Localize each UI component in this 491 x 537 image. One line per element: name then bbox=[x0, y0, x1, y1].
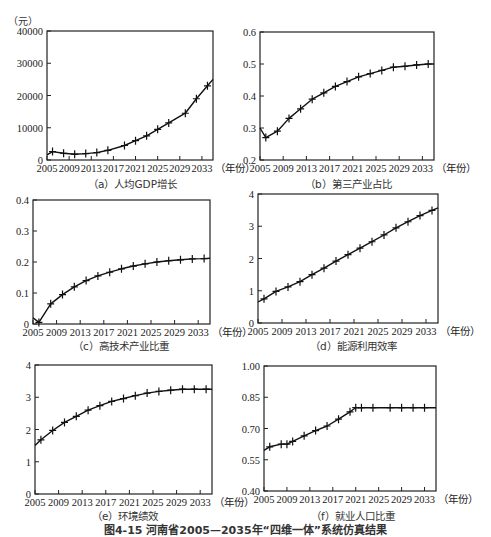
plus-marker bbox=[285, 283, 292, 291]
plus-marker bbox=[335, 415, 342, 423]
y-tick-label: 1 bbox=[249, 286, 254, 297]
x-tick-label: 2033 bbox=[416, 326, 437, 337]
plus-marker bbox=[345, 251, 352, 259]
x-tick-label: 2013 bbox=[299, 494, 320, 505]
x-tick-label: 2013 bbox=[81, 163, 102, 174]
x-tick-label: 2017 bbox=[103, 163, 124, 174]
series-line bbox=[47, 79, 213, 154]
plus-marker bbox=[191, 385, 198, 393]
plus-marker bbox=[143, 132, 150, 140]
plot-frame bbox=[47, 31, 213, 160]
chart-a: 0100002000030000400002005200920132017202… bbox=[17, 26, 255, 174]
plus-marker bbox=[378, 66, 385, 74]
x-tick-label: 2033 bbox=[414, 494, 435, 505]
y-tick-label: 3 bbox=[249, 221, 254, 232]
plot-frame bbox=[264, 366, 436, 491]
chart-f: 0.400.550.700.851.0020052009201320172021… bbox=[242, 361, 478, 505]
plus-marker bbox=[301, 432, 308, 440]
chart-e: 0123420052009201320172021202520292033（年份… bbox=[25, 360, 255, 508]
y-tick-label: 0.2 bbox=[16, 257, 29, 268]
plus-marker bbox=[421, 404, 428, 412]
plot-frame bbox=[260, 32, 434, 160]
plus-marker bbox=[405, 218, 412, 226]
y-tick-label: 1 bbox=[26, 457, 31, 468]
plus-marker bbox=[104, 146, 111, 154]
x-tick-label: 2021 bbox=[342, 163, 363, 174]
plus-marker bbox=[393, 224, 400, 232]
plus-marker bbox=[83, 277, 90, 285]
plus-marker bbox=[177, 256, 184, 264]
x-tick-label: 2013 bbox=[296, 326, 317, 337]
x-tick-label: 2013 bbox=[70, 327, 91, 338]
plus-marker bbox=[144, 389, 151, 397]
x-tick-label: 2025 bbox=[147, 163, 168, 174]
plus-marker bbox=[417, 212, 424, 220]
plus-marker bbox=[410, 404, 417, 412]
x-axis-label: （年份） bbox=[438, 493, 478, 505]
plus-marker bbox=[358, 404, 365, 412]
y-tick-label: 40000 bbox=[17, 26, 43, 37]
x-tick-label: 2009 bbox=[273, 163, 294, 174]
x-tick-label: 2029 bbox=[391, 494, 412, 505]
x-tick-label: 2013 bbox=[72, 497, 93, 508]
y-tick-label: 0.5 bbox=[243, 59, 256, 70]
y-tick-label: 0.4 bbox=[16, 195, 30, 206]
y-tick-label: 10000 bbox=[17, 123, 43, 134]
y-tick-label: 2 bbox=[249, 254, 254, 265]
plus-marker bbox=[82, 150, 89, 158]
plus-marker bbox=[402, 62, 409, 70]
plus-marker bbox=[153, 258, 160, 266]
x-tick-label: 2021 bbox=[344, 326, 365, 337]
plus-marker bbox=[167, 386, 174, 394]
x-tick-label: 2009 bbox=[272, 326, 293, 337]
plus-marker bbox=[155, 387, 162, 395]
x-tick-label: 2009 bbox=[48, 497, 69, 508]
plus-marker bbox=[189, 255, 196, 263]
y-tick-label: 0.4 bbox=[243, 91, 257, 102]
x-tick-label: 2013 bbox=[296, 163, 317, 174]
x-tick-label: 2009 bbox=[276, 494, 297, 505]
plus-marker bbox=[73, 412, 80, 420]
plus-marker bbox=[96, 402, 103, 410]
plus-marker bbox=[93, 149, 100, 157]
plus-marker bbox=[347, 408, 354, 416]
plus-marker bbox=[132, 137, 139, 145]
plus-marker bbox=[324, 422, 331, 430]
plus-marker bbox=[297, 278, 304, 286]
y-tick-label: 0.85 bbox=[242, 392, 260, 403]
plus-marker bbox=[120, 395, 127, 403]
x-tick-label: 2017 bbox=[93, 327, 114, 338]
x-tick-label: 2005 bbox=[248, 326, 269, 337]
plus-marker bbox=[203, 385, 210, 393]
x-tick-label: 2017 bbox=[319, 163, 340, 174]
plus-marker bbox=[398, 404, 405, 412]
y-tick-label: 2 bbox=[26, 425, 31, 436]
x-tick-label: 2009 bbox=[59, 163, 80, 174]
x-tick-label: 2005 bbox=[37, 163, 58, 174]
x-tick-label: 2005 bbox=[250, 163, 271, 174]
x-tick-label: 2025 bbox=[366, 163, 387, 174]
x-tick-label: 2033 bbox=[191, 163, 212, 174]
plus-marker bbox=[106, 268, 113, 276]
x-tick-label: 2033 bbox=[188, 327, 209, 338]
plus-marker bbox=[142, 260, 149, 268]
x-tick-label: 2017 bbox=[320, 326, 341, 337]
plot-frame bbox=[33, 200, 210, 324]
plus-marker bbox=[312, 427, 319, 435]
x-axis-label: （年份） bbox=[212, 326, 252, 338]
plus-marker bbox=[390, 63, 397, 71]
plus-marker bbox=[332, 82, 339, 90]
y-tick-label: 0.6 bbox=[243, 27, 256, 38]
plus-marker bbox=[309, 271, 316, 279]
plus-marker bbox=[333, 257, 340, 265]
x-tick-label: 2033 bbox=[412, 163, 433, 174]
x-tick-label: 2021 bbox=[125, 163, 146, 174]
x-axis-label: （年份） bbox=[440, 325, 480, 337]
plus-marker bbox=[344, 78, 351, 86]
plus-marker bbox=[429, 206, 436, 214]
plus-marker bbox=[61, 418, 68, 426]
plus-marker bbox=[49, 148, 56, 156]
plus-marker bbox=[357, 244, 364, 252]
x-tick-label: 2029 bbox=[164, 327, 185, 338]
plus-marker bbox=[273, 287, 280, 295]
